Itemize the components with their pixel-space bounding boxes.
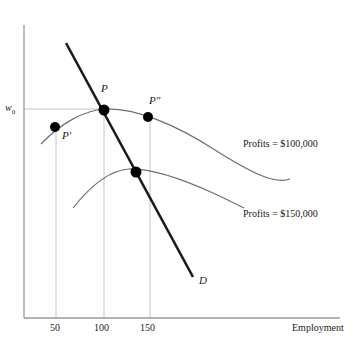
point-p-prime-label: P′ [62, 130, 71, 141]
figure-canvas: w0 P P′ P″ Profits = $100,000 Profits = … [0, 0, 355, 337]
figure-graphics [0, 0, 355, 337]
x-axis-label: Employment [292, 323, 344, 333]
isoprofit-curve-150000 [73, 169, 244, 208]
x-tick-label-50: 50 [50, 323, 60, 333]
point-p-label: P [101, 83, 108, 94]
isoprofit-100000-label: Profits = $100,000 [243, 139, 318, 149]
wage-symbol: w [5, 102, 12, 113]
labor-demand-line [66, 43, 193, 277]
point-p-dot [99, 105, 110, 116]
wage-axis-label: w0 [5, 103, 15, 116]
point-p-double-prime-label: P″ [149, 95, 160, 106]
isoprofit-150000-label: Profits = $150,000 [243, 209, 318, 219]
point-p-prime-dot [50, 122, 60, 132]
point-tangency-lower-dot [131, 167, 142, 178]
point-p-double-prime-dot [143, 112, 153, 122]
x-tick-label-150: 150 [140, 323, 155, 333]
demand-curve-label: D [199, 275, 207, 286]
x-tick-label-100: 100 [94, 323, 109, 333]
wage-subscript: 0 [12, 108, 16, 116]
